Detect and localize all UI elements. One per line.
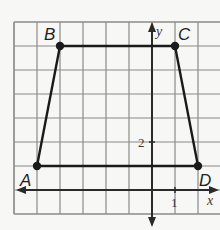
vertex-b (56, 42, 64, 50)
x-tick-label-1: 1 (171, 195, 178, 210)
point-label-d: D (199, 171, 211, 190)
point-label-c: C (178, 25, 191, 44)
point-labels: A B C D y x 2 1 (19, 24, 214, 210)
trapezoid-outline (37, 46, 198, 166)
point-label-b: B (44, 25, 55, 44)
y-axis-down-arrow-icon (148, 217, 156, 227)
point-label-a: A (19, 171, 31, 190)
axes (16, 22, 219, 227)
y-axis-label: y (154, 24, 163, 39)
trapezoid-abcd (33, 42, 202, 170)
vertex-d (194, 162, 202, 170)
coordinate-grid-figure: A B C D y x 2 1 (0, 0, 220, 230)
y-axis-up-arrow-icon (148, 22, 156, 32)
x-axis-label: x (206, 193, 214, 208)
y-tick-label-2: 2 (138, 135, 145, 150)
vertex-a (33, 162, 41, 170)
